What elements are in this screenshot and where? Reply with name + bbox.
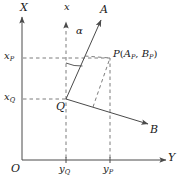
angle-label-alpha: α — [76, 26, 83, 36]
vector-label-a: A — [100, 4, 108, 15]
point-p-name: P — [113, 48, 120, 59]
diagram-canvas — [0, 0, 185, 183]
point-p-paren-close: ) — [153, 48, 157, 59]
point-label-q: Q — [56, 101, 65, 112]
point-p-a: A — [124, 48, 131, 59]
tick-label-y-q: yQ — [59, 164, 70, 175]
tick-label-x-p: xP — [4, 51, 14, 62]
angle-alpha-arc — [66, 63, 83, 66]
parallelogram-side-b-to-p — [93, 58, 110, 107]
vector-label-b: B — [150, 124, 158, 135]
axis-label-y-horizontal: Y — [168, 152, 175, 163]
axis-label-x-vertical: X — [20, 2, 28, 13]
tick-label-x-q: xQ — [4, 92, 15, 103]
tick-x-p-sub: P — [10, 55, 14, 63]
origin-label-o: O — [11, 163, 20, 174]
geometry-figure: X x A α P(AP, BP) xP xQ Q B O yQ yP Y — [0, 0, 185, 183]
point-label-p: P(AP, BP) — [113, 49, 157, 60]
axis-label-x-local: x — [64, 2, 70, 12]
tick-y-p-sub: P — [109, 168, 113, 176]
point-p-b: B — [142, 48, 149, 59]
tick-y-q-sub: Q — [65, 168, 70, 176]
tick-x-q-sub: Q — [10, 96, 15, 104]
vector-a-ray — [66, 20, 101, 99]
vector-b-ray — [66, 99, 148, 124]
tick-label-y-p: yP — [103, 164, 113, 175]
